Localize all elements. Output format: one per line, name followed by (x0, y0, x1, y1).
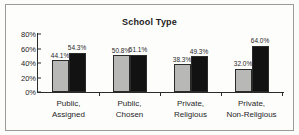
bar-group: 50.8%51.1% (99, 34, 160, 92)
category-label-line1: Private, (221, 99, 282, 110)
bar-group: 44.1%54.3% (38, 34, 99, 92)
bar-value-label: 32.0% (234, 61, 252, 68)
y-tick: 60% (10, 44, 38, 53)
category-label: Private,Religious (160, 99, 221, 120)
y-tick-label: 0% (10, 88, 38, 97)
y-tick: 40% (10, 59, 38, 68)
bar-value-label: 38.3% (173, 57, 191, 64)
category-label-line2: Religious (160, 110, 221, 121)
category-label-line2: Chosen (99, 110, 160, 121)
bar-value-label: 49.3% (190, 49, 208, 56)
bar-column[interactable]: 49.3% (191, 34, 208, 92)
plot-area: 80%60%40%20%0% 44.1%54.3%50.8%51.1%38.3%… (38, 34, 283, 92)
bar-column[interactable]: 38.3% (174, 34, 191, 92)
bar-column[interactable]: 32.0% (235, 34, 252, 92)
bar-column[interactable]: 54.3% (69, 34, 86, 92)
bar-gray[interactable] (235, 69, 252, 92)
x-tick-mark (282, 92, 283, 96)
bar-gray[interactable] (52, 60, 69, 92)
x-tick-mark (99, 92, 100, 96)
bar-group: 32.0%64.0% (221, 34, 282, 92)
bar-column[interactable]: 50.8% (113, 34, 130, 92)
bar-value-label: 64.0% (251, 38, 269, 45)
category-label-line1: Private, (160, 99, 221, 110)
bar-value-label: 50.8% (112, 48, 130, 55)
category-label: Private,Non-Religious (221, 99, 282, 120)
y-tick: 80% (10, 30, 38, 39)
bar-black[interactable] (191, 56, 208, 92)
y-tick-label: 60% (10, 44, 38, 53)
bar-group: 38.3%49.3% (160, 34, 221, 92)
bar-black[interactable] (252, 46, 269, 92)
bar-black[interactable] (130, 55, 147, 92)
chart-title: School Type (0, 17, 299, 27)
y-tick: 0% (10, 88, 38, 97)
category-label-line2: Assigned (38, 110, 99, 121)
category-label-line1: Public, (38, 99, 99, 110)
y-tick-label: 80% (10, 30, 38, 39)
category-label: Public,Chosen (99, 99, 160, 120)
bar-column[interactable]: 64.0% (252, 34, 269, 92)
bar-black[interactable] (69, 53, 86, 92)
x-tick-mark (160, 92, 161, 96)
bar-value-label: 44.1% (51, 53, 69, 60)
bar-gray[interactable] (113, 55, 130, 92)
category-label: Public,Assigned (38, 99, 99, 120)
bar-value-label: 51.1% (129, 47, 147, 54)
bar-column[interactable]: 51.1% (130, 34, 147, 92)
bar-gray[interactable] (174, 64, 191, 92)
x-tick-mark (221, 92, 222, 96)
y-tick-label: 20% (10, 73, 38, 82)
bar-value-label: 54.3% (68, 45, 86, 52)
chart-figure: School Type 80%60%40%20%0% 44.1%54.3%50.… (0, 0, 299, 135)
y-tick-label: 40% (10, 59, 38, 68)
category-label-line2: Non-Religious (221, 110, 282, 121)
category-label-line1: Public, (99, 99, 160, 110)
y-tick: 20% (10, 73, 38, 82)
bar-column[interactable]: 44.1% (52, 34, 69, 92)
